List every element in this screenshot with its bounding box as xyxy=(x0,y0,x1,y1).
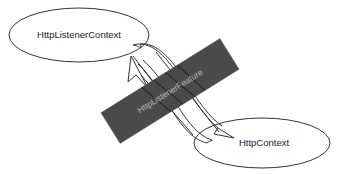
node-label: HttpListenerContext xyxy=(37,29,121,40)
node-label: HttpContext xyxy=(239,137,290,148)
node-http-listener-context[interactable]: HttpListenerContext xyxy=(9,8,149,62)
diagram-canvas: HttpListenerContext HttpContext HttpLis xyxy=(0,0,338,174)
